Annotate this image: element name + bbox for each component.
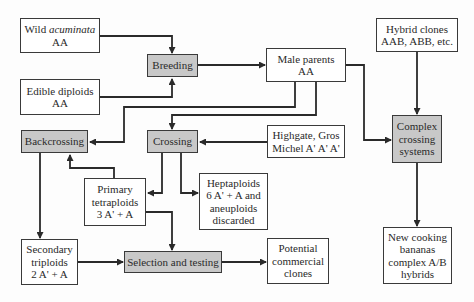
node-new-cooking-line1: New cooking xyxy=(388,231,447,244)
arrow-crossing-to-heptaploids xyxy=(181,153,198,193)
node-secondary-line1: Secondary xyxy=(26,243,72,256)
breeding-flow-diagram: Wild acuminata AA Edible diploids AA Bre… xyxy=(0,0,474,302)
acuminata-label: acuminata xyxy=(49,23,95,35)
node-new-cooking-bananas: New cooking bananas complex A/B hybrids xyxy=(383,227,452,284)
node-primary-genome: 3 A' + A xyxy=(97,208,134,221)
node-backcrossing-label: Backcrossing xyxy=(25,135,84,148)
node-heptaploids-line1: Heptaploids xyxy=(207,177,260,190)
node-hybrid-clones-line1: Hybrid clones xyxy=(386,23,448,36)
node-primary-line1: Primary xyxy=(97,183,132,196)
node-new-cooking-line4: hybrids xyxy=(401,268,434,281)
node-breeding-label: Breeding xyxy=(152,59,192,72)
node-backcrossing: Backcrossing xyxy=(21,130,88,153)
node-crossing: Crossing xyxy=(147,130,198,153)
node-selection-label: Selection and testing xyxy=(127,256,219,269)
node-highgate: Highgate, Gros Michel A' A' A' xyxy=(267,125,345,158)
node-edible-diploids-genome: AA xyxy=(52,97,68,110)
node-selection-testing: Selection and testing xyxy=(124,251,222,273)
node-male-parents: Male parents AA xyxy=(266,48,346,82)
node-new-cooking-line3: complex A/B xyxy=(388,256,446,269)
node-secondary-genome: 2 A' + A xyxy=(31,268,68,281)
node-heptaploids-line2: 6 A' + A and xyxy=(206,189,261,202)
node-new-cooking-line2: bananas xyxy=(400,243,435,256)
node-complex-crossing: Complex crossing systems xyxy=(392,115,442,163)
node-highgate-line2: Michel A' A' A' xyxy=(272,142,339,155)
arrow-primary-to-selection xyxy=(146,212,172,250)
node-potential-line3: clones xyxy=(284,267,312,280)
node-primary-line2: tetraploids xyxy=(92,196,138,209)
arrow-male-to-complex xyxy=(346,65,391,140)
node-complex-line1: Complex xyxy=(397,120,437,133)
arrow-wild-to-breeding xyxy=(100,36,172,53)
node-edible-diploids-line1: Edible diploids xyxy=(27,85,94,98)
node-complex-line3: systems xyxy=(400,145,435,158)
node-heptaploids-line4: discarded xyxy=(212,214,254,227)
node-edible-diploids: Edible diploids AA xyxy=(20,79,100,115)
wild-label: Wild xyxy=(25,23,49,35)
arrow-edible-to-breeding xyxy=(100,79,172,97)
node-wild-acuminata: Wild acuminata AA xyxy=(20,18,100,53)
arrow-primary-to-backcrossing xyxy=(70,155,114,178)
arrow-crossing-to-primary xyxy=(148,153,162,193)
node-hybrid-clones: Hybrid clones AAB, ABB, etc. xyxy=(376,18,458,52)
node-potential-clones: Potential commercial clones xyxy=(267,238,329,284)
node-potential-line1: Potential xyxy=(278,242,317,255)
node-wild-acuminata-genome: AA xyxy=(52,36,68,49)
node-heptaploids-line3: aneuploids xyxy=(210,202,258,215)
node-crossing-label: Crossing xyxy=(153,135,192,148)
node-breeding: Breeding xyxy=(147,54,198,77)
node-heptaploids: Heptaploids 6 A' + A and aneuploids disc… xyxy=(199,173,268,230)
node-secondary-line2: triploids xyxy=(31,256,68,269)
node-male-parents-genome: AA xyxy=(298,65,314,78)
node-wild-acuminata-line1: Wild acuminata xyxy=(25,23,96,36)
node-highgate-line1: Highgate, Gros xyxy=(272,129,339,142)
node-primary-tetraploids: Primary tetraploids 3 A' + A xyxy=(84,178,146,226)
node-potential-line2: commercial xyxy=(272,255,324,268)
node-secondary-triploids: Secondary triploids 2 A' + A xyxy=(21,239,78,285)
node-male-parents-line1: Male parents xyxy=(277,53,334,66)
node-complex-line2: crossing xyxy=(399,133,436,146)
node-hybrid-clones-line2: AAB, ABB, etc. xyxy=(381,35,453,48)
